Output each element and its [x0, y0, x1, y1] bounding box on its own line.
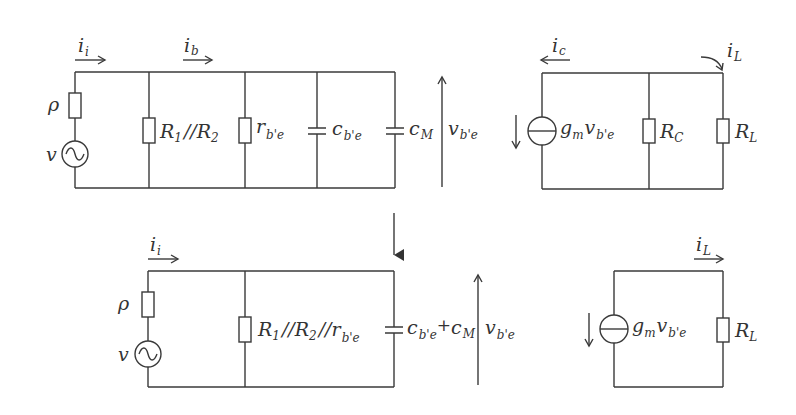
cbe-capacitor: [308, 128, 326, 134]
rho-label-bottom: ρ: [117, 292, 130, 314]
gm-vbe-label: gmvb'e: [560, 116, 614, 142]
voltage-vbe-label-bottom: vb'e: [485, 316, 515, 342]
current-source-icon-bottom: [600, 315, 628, 343]
current-il-label: iL: [727, 39, 742, 64]
rbe-resistor: [239, 118, 251, 143]
rl-label: RL: [734, 120, 757, 145]
rc-label: RC: [659, 120, 684, 145]
ac-source-icon-bottom: [135, 341, 161, 367]
rl-resistor-bottom: [717, 318, 729, 342]
voltage-vbe-label: vb'e: [448, 117, 478, 142]
rbe-label: rb'e: [256, 115, 284, 142]
ac-source-icon: [62, 141, 88, 167]
gm-vbe-label-bottom: gmvb'e: [632, 314, 686, 340]
rc-resistor: [643, 119, 655, 143]
r1-r2-resistor: [143, 118, 155, 143]
cm-capacitor: [386, 128, 404, 134]
rho-resistor-bottom: [142, 292, 154, 317]
bottom-right-circuit: gmvb'e iL RL: [589, 233, 757, 387]
current-ii-label: ii: [78, 34, 89, 59]
source-v-label-bottom: v: [118, 343, 129, 365]
current-ib-label: ib: [184, 34, 199, 58]
top-right-circuit: gmvb'e ic RC RL iL: [516, 34, 757, 189]
top-left-circuit: ρ v ii ib R1//R2 rb'e cb'e: [46, 34, 478, 188]
rl-label-bottom: RL: [734, 319, 757, 344]
rho-label: ρ: [47, 93, 60, 115]
bottom-left-circuit: ρ v ii R1//R2//rb'e cb'e+cM vb'e: [117, 233, 515, 387]
r1-r2-rbe-resistor: [239, 317, 251, 342]
circuit-diagram: ρ v ii ib R1//R2 rb'e cb'e: [0, 0, 796, 415]
cbe-label: cb'e: [332, 117, 362, 143]
current-ic-label: ic: [552, 34, 566, 58]
r1-r2-rbe-label: R1//R2//rb'e: [257, 318, 360, 345]
source-v-label: v: [46, 143, 57, 165]
cbe-plus-cm-label: cb'e+cM: [407, 315, 476, 342]
rl-resistor: [717, 119, 729, 143]
rho-resistor: [69, 93, 81, 118]
r1-r2-label: R1//R2: [159, 120, 219, 145]
current-ii-label-bottom: ii: [150, 233, 161, 258]
current-il-label-bottom: iL: [696, 233, 711, 258]
current-source-icon: [528, 117, 556, 145]
cm-label: cM: [409, 117, 434, 142]
cbe-plus-cm-capacitor: [385, 327, 403, 333]
